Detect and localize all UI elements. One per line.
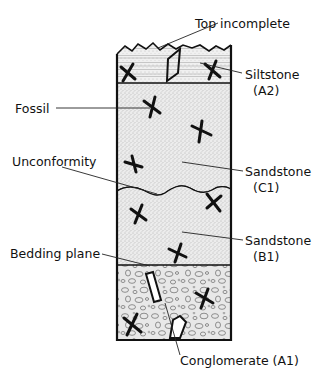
label-siltstone-code: (A2) — [253, 83, 279, 98]
label-conglomerate: Conglomerate (A1) — [180, 353, 299, 368]
label-unconformity: Unconformity — [12, 154, 96, 169]
label-top-incomplete: Top incomplete — [195, 16, 290, 31]
label-siltstone: Siltstone — [245, 67, 299, 82]
label-bedding-plane: Bedding plane — [10, 246, 100, 261]
label-sandstone-c1-code: (C1) — [253, 180, 279, 195]
label-fossil: Fossil — [15, 101, 49, 116]
label-sandstone-b1: Sandstone — [245, 233, 311, 248]
label-sandstone-c1: Sandstone — [245, 164, 311, 179]
layer-sandstone-c1 — [117, 83, 231, 197]
label-sandstone-b1-code: (B1) — [253, 249, 279, 264]
